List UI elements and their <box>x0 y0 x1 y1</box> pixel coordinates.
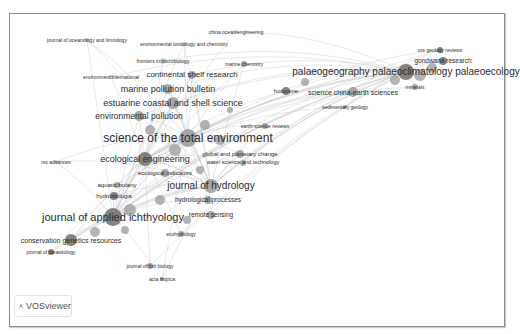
node-label[interactable]: journal of parasitology <box>27 250 76 255</box>
node-label[interactable]: marine chemistry <box>225 62 263 67</box>
node-label[interactable]: earth-science reviews <box>241 124 289 129</box>
vosviewer-logo-text: VOSviewer <box>26 301 71 311</box>
network-node <box>90 227 100 237</box>
node-label[interactable]: holocene <box>274 88 298 94</box>
node-label[interactable]: water science and technology <box>207 160 279 166</box>
node-label[interactable]: global and planetary change <box>202 151 277 157</box>
network-node <box>227 107 233 113</box>
node-label[interactable]: science china-earth sciences <box>308 89 398 96</box>
node-label[interactable]: marine pollution bulletin <box>121 85 216 94</box>
network-node <box>301 78 309 86</box>
node-label[interactable]: ecological engineering <box>100 155 190 164</box>
node-label[interactable]: ecohydrology <box>166 232 196 237</box>
node-label[interactable]: journal of fish biology <box>127 264 174 269</box>
node-label[interactable]: ecological indicators <box>138 170 192 176</box>
node-label[interactable]: continental shelf research <box>146 71 237 79</box>
vosviewer-logo-icon <box>19 300 23 312</box>
vosviewer-logo: VOSviewer <box>14 295 72 317</box>
node-label[interactable]: frontiers in microbiology <box>137 59 190 64</box>
node-label[interactable]: acta tropica <box>149 277 175 282</box>
network-node <box>121 226 129 234</box>
node-label[interactable]: ore geology reviews <box>418 48 462 53</box>
node-label[interactable]: environment international <box>83 75 139 80</box>
node-label[interactable]: estuarine coastal and shell science <box>103 99 243 108</box>
node-label[interactable]: environmental toxicology and chemistry <box>140 42 228 47</box>
node-label[interactable]: science of the total environment <box>103 132 272 144</box>
node-label[interactable]: environmental pollution <box>95 112 182 121</box>
node-label[interactable]: journal of oceanology and limnology <box>47 38 127 43</box>
network-node <box>155 195 165 205</box>
node-label[interactable]: aquatic botany <box>97 182 136 188</box>
node-label[interactable]: sedimentary geology <box>322 105 368 110</box>
node-label[interactable]: hydrobiologia <box>96 193 132 199</box>
node-label[interactable]: remote sensing <box>189 212 233 219</box>
network-node <box>196 166 204 174</box>
node-label[interactable]: conservation genetics resources <box>21 237 121 244</box>
node-label[interactable]: hydrological processes <box>175 197 241 204</box>
node-label[interactable]: china ocean engineering <box>209 30 264 35</box>
node-label[interactable]: journal of applied ichthyology <box>42 212 184 223</box>
node-label[interactable]: minerals <box>406 85 425 90</box>
network-node <box>200 120 210 130</box>
node-label[interactable]: rsc advances <box>41 160 70 165</box>
node-label[interactable]: palaeogeography palaeoclimatology palaeo… <box>292 67 519 77</box>
node-label[interactable]: gondwana research <box>414 58 471 65</box>
node-label[interactable]: journal of hydrology <box>167 181 254 191</box>
